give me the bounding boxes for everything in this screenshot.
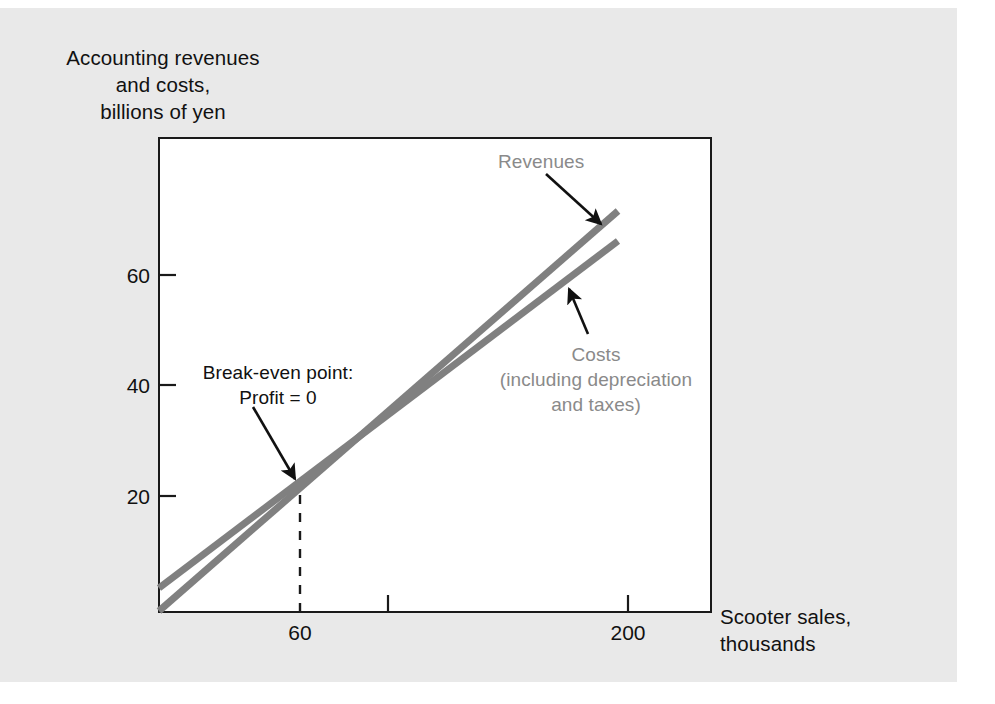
x-tick-label-60: 60 bbox=[265, 621, 335, 645]
break-even-annotation-label: Break-even point: Profit = 0 bbox=[178, 360, 378, 410]
y-axis-title: Accounting revenues and costs, billions … bbox=[38, 44, 288, 125]
y-tick-label-20: 20 bbox=[104, 485, 150, 509]
revenues-series-label: Revenues bbox=[498, 149, 618, 174]
breakeven-chart-figure: Accounting revenues and costs, billions … bbox=[0, 8, 957, 682]
y-tick-label-60: 60 bbox=[104, 264, 150, 288]
x-tick-label-200: 200 bbox=[593, 621, 663, 645]
costs-series-label: Costs (including depreciation and taxes) bbox=[476, 342, 716, 417]
x-axis-title: Scooter sales, thousands bbox=[720, 603, 950, 657]
y-tick-label-40: 40 bbox=[104, 374, 150, 398]
figure-page: Accounting revenues and costs, billions … bbox=[0, 8, 957, 682]
